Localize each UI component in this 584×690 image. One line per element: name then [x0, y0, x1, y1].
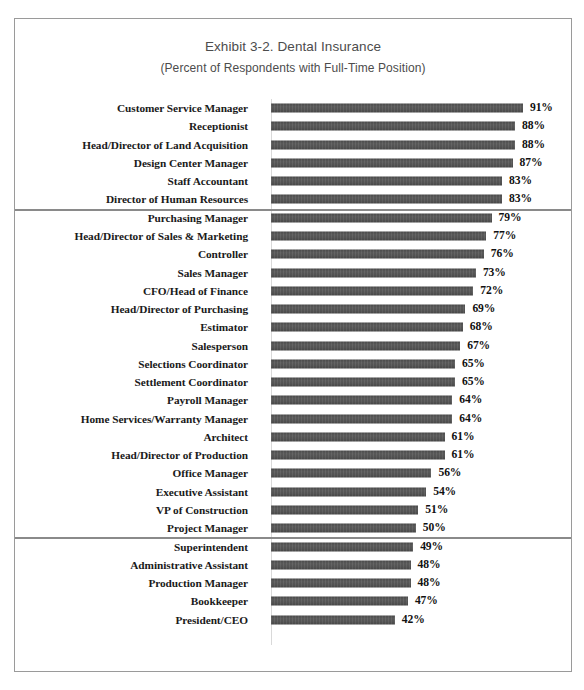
data-bar [271, 560, 411, 569]
bar-value-label: 88% [522, 120, 545, 132]
bar-value-label: 49% [420, 541, 443, 553]
bar-track: 73% [271, 263, 572, 281]
bar-track: 83% [271, 172, 572, 190]
chart-row: Director of Human Resources83% [15, 190, 572, 208]
chart-row: Purchasing Manager79% [15, 209, 572, 227]
chart-row: Design Center Manager87% [15, 154, 572, 172]
data-bar [271, 250, 484, 259]
bar-track: 83% [271, 190, 572, 208]
data-bar [271, 122, 515, 131]
bar-track: 54% [271, 483, 572, 501]
category-label: Customer Service Manager [15, 102, 257, 114]
bar-value-label: 77% [493, 230, 516, 242]
category-label: Head/Director of Sales & Marketing [15, 230, 257, 242]
category-label: Architect [15, 431, 257, 443]
bar-track: 87% [271, 154, 572, 172]
category-label: Controller [15, 248, 257, 260]
chart-row: Project Manager50% [15, 519, 572, 537]
chart-row: Receptionist88% [15, 117, 572, 135]
chart-frame: Exhibit 3-2. Dental Insurance (Percent o… [14, 18, 572, 672]
category-label: Sales Manager [15, 267, 257, 279]
chart-row: Home Services/Warranty Manager64% [15, 410, 572, 428]
chart-row: Estimator68% [15, 318, 572, 336]
category-label: Home Services/Warranty Manager [15, 413, 257, 425]
data-bar [271, 414, 452, 423]
bar-value-label: 48% [418, 559, 441, 571]
category-label: Payroll Manager [15, 394, 257, 406]
data-bar [271, 378, 455, 387]
bar-value-label: 91% [530, 102, 553, 114]
category-label: Bookkeeper [15, 595, 257, 607]
bar-track: 65% [271, 355, 572, 373]
chart-row: Administrative Assistant48% [15, 556, 572, 574]
chart-row: Controller76% [15, 245, 572, 263]
bar-value-label: 83% [509, 175, 532, 187]
bar-track: 64% [271, 391, 572, 409]
chart-row: Architect61% [15, 428, 572, 446]
chart-title-block: Exhibit 3-2. Dental Insurance (Percent o… [15, 37, 571, 78]
category-label: Executive Assistant [15, 486, 257, 498]
data-bar [271, 140, 515, 149]
bar-track: 67% [271, 336, 572, 354]
chart-row: Sales Manager73% [15, 263, 572, 281]
bar-track: 64% [271, 410, 572, 428]
bar-track: 88% [271, 117, 572, 135]
data-bar [271, 286, 473, 295]
data-bar [271, 487, 426, 496]
category-label: Office Manager [15, 467, 257, 479]
bar-value-label: 79% [499, 212, 522, 224]
category-label: Head/Director of Land Acquisition [15, 139, 257, 151]
chart-row: Selections Coordinator65% [15, 355, 572, 373]
chart-row: CFO/Head of Finance72% [15, 282, 572, 300]
bar-value-label: 56% [438, 467, 461, 479]
bar-value-label: 88% [522, 139, 545, 151]
data-bar [271, 177, 502, 186]
category-label: Estimator [15, 321, 257, 333]
bar-value-label: 54% [433, 486, 456, 498]
bar-track: 48% [271, 574, 572, 592]
bar-value-label: 72% [480, 285, 503, 297]
category-label: Production Manager [15, 577, 257, 589]
chart-row: VP of Construction51% [15, 501, 572, 519]
category-label: Administrative Assistant [15, 559, 257, 571]
bar-value-label: 67% [467, 340, 490, 352]
data-bar [271, 231, 486, 240]
category-label: Purchasing Manager [15, 212, 257, 224]
chart-row: Head/Director of Land Acquisition88% [15, 136, 572, 154]
chart-row: Settlement Coordinator65% [15, 373, 572, 391]
bar-track: 50% [271, 519, 572, 537]
category-label: President/CEO [15, 614, 257, 626]
category-label: Project Manager [15, 522, 257, 534]
category-label: Selections Coordinator [15, 358, 257, 370]
category-label: Superintendent [15, 541, 257, 553]
bar-track: 72% [271, 282, 572, 300]
bar-track: 61% [271, 428, 572, 446]
bar-value-label: 68% [470, 321, 493, 333]
bar-track: 47% [271, 592, 572, 610]
bar-value-label: 61% [452, 449, 475, 461]
data-bar [271, 396, 452, 405]
chart-row: Payroll Manager64% [15, 391, 572, 409]
category-label: Head/Director of Purchasing [15, 303, 257, 315]
chart-row: Superintendent49% [15, 537, 572, 555]
data-bar [271, 323, 463, 332]
page-title: Exhibit 3-2. Dental Insurance [15, 37, 571, 57]
bar-track: 91% [271, 99, 572, 117]
bar-track: 77% [271, 227, 572, 245]
chart-subtitle: (Percent of Respondents with Full-Time P… [15, 58, 571, 78]
chart-row: Bookkeeper47% [15, 592, 572, 610]
data-bar [271, 597, 408, 606]
chart-row: Salesperson67% [15, 336, 572, 354]
bar-value-label: 61% [452, 431, 475, 443]
data-bar [271, 158, 513, 167]
bar-value-label: 50% [423, 522, 446, 534]
data-bar [271, 268, 476, 277]
category-label: Director of Human Resources [15, 193, 257, 205]
chart-row: Head/Director of Purchasing69% [15, 300, 572, 318]
data-bar [271, 213, 492, 222]
chart-row: Head/Director of Sales & Marketing77% [15, 227, 572, 245]
bar-track: 48% [271, 556, 572, 574]
bar-value-label: 76% [491, 248, 514, 260]
chart-row: Customer Service Manager91% [15, 99, 572, 117]
data-bar [271, 505, 418, 514]
